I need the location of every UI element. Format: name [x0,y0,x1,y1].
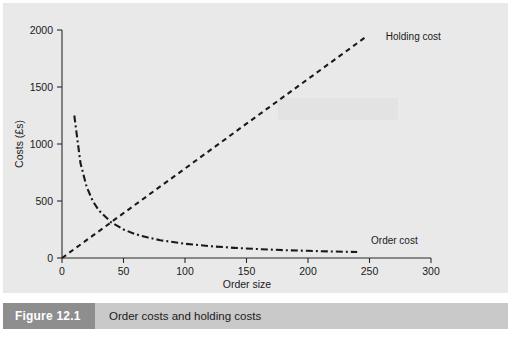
x-tick-label: 50 [118,265,130,277]
annotation-order-cost: Order cost [371,235,418,246]
x-tick-label: 200 [299,265,317,277]
y-tick-label: 0 [47,252,53,264]
x-axis-title: Order size [223,278,272,290]
costs-line-chart: 0500100015002000 050100150200250300 Hold… [3,3,508,293]
y-tick-label: 1000 [30,138,54,150]
y-tick-label: 1500 [30,81,54,93]
y-tick-label: 500 [35,195,53,207]
figure-container: 0500100015002000 050100150200250300 Hold… [0,0,511,347]
x-tick-label: 150 [238,265,256,277]
x-tick-label: 100 [176,265,194,277]
figure-caption-bar: Figure 12.1 Order costs and holding cost… [3,303,508,329]
x-tick-label: 0 [59,265,65,277]
figure-number: Figure 12.1 [3,303,95,329]
figure-caption-text: Order costs and holding costs [95,303,508,329]
annotation-holding-cost: Holding cost [386,31,441,42]
y-tick-label: 2000 [30,24,54,36]
x-tick-label: 300 [422,265,440,277]
x-tick-label: 250 [361,265,379,277]
y-axis-title: Costs (£s) [13,120,25,168]
chart-panel: 0500100015002000 050100150200250300 Hold… [3,3,508,293]
